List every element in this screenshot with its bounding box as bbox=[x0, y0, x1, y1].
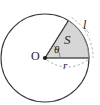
centre-label-O: O bbox=[31, 50, 40, 62]
radius-label-r: r bbox=[63, 60, 67, 71]
area-label-S: S bbox=[64, 33, 71, 46]
radius-measure-dashed-arc bbox=[47, 60, 88, 67]
angle-label-theta: θ bbox=[54, 44, 59, 55]
circle-sector-svg bbox=[0, 0, 100, 105]
arc-length-label-l: l bbox=[83, 19, 86, 31]
centre-point-dot bbox=[43, 56, 47, 60]
geometry-figure: O θ S l r bbox=[0, 0, 100, 105]
